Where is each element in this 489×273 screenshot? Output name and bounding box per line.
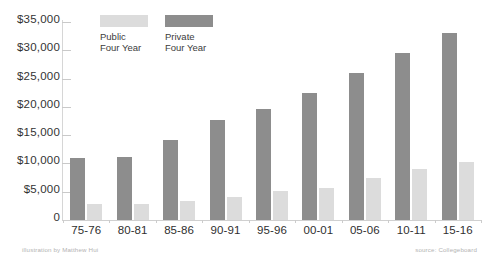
- public-swatch-icon: [100, 15, 148, 27]
- bar-public-four-year: [227, 197, 242, 220]
- bar-private-four-year: [210, 120, 225, 220]
- bar-public-four-year: [366, 178, 381, 220]
- x-axis-tick-mark: [156, 220, 157, 223]
- source-credit: source: Collegeboard: [415, 246, 477, 253]
- bar-public-four-year: [134, 204, 149, 220]
- bar-public-four-year: [319, 188, 334, 220]
- legend-label-public-line1: Public: [100, 32, 152, 43]
- bar-group: [342, 22, 388, 220]
- x-axis-tick-label: 75-76: [63, 224, 109, 236]
- y-axis-tick-label: $10,000: [17, 154, 60, 166]
- x-axis-tick-mark: [202, 220, 203, 223]
- x-axis-label-group: 75-7680-8185-8690-9195-9600-0105-0610-11…: [63, 224, 481, 236]
- bar-group: [295, 22, 341, 220]
- x-axis-tick-label: 05-06: [342, 224, 388, 236]
- bar-private-four-year: [70, 158, 85, 220]
- x-axis-tick-label: 15-16: [435, 224, 481, 236]
- bar-public-four-year: [87, 204, 102, 220]
- legend-label-public-line2: Four Year: [100, 43, 152, 54]
- x-axis-tick-mark: [295, 220, 296, 223]
- bar-private-four-year: [395, 53, 410, 220]
- y-axis-tick-label: $20,000: [17, 98, 60, 110]
- x-axis-tick-label: 10-11: [388, 224, 434, 236]
- legend-label-private-line1: Private: [165, 32, 217, 43]
- y-axis-tick-label: $35,000: [17, 13, 60, 25]
- x-axis-tick-mark: [342, 220, 343, 223]
- bar-private-four-year: [256, 109, 271, 220]
- x-axis-tick-mark: [63, 220, 64, 223]
- bar-group: [435, 22, 481, 220]
- x-axis-tick-mark: [481, 220, 482, 223]
- x-axis-tick-mark: [249, 220, 250, 223]
- y-axis-tick-label: 0: [53, 211, 60, 223]
- x-axis-tick-mark: [109, 220, 110, 223]
- bar-public-four-year: [273, 191, 288, 220]
- bar-public-four-year: [180, 201, 195, 220]
- x-axis-line: [62, 220, 482, 221]
- x-axis-tick-label: 95-96: [249, 224, 295, 236]
- bar-private-four-year: [349, 73, 364, 220]
- bar-private-four-year: [302, 93, 317, 220]
- x-axis-tick-mark: [435, 220, 436, 223]
- bar-private-four-year: [442, 33, 457, 220]
- legend-label-private-line2: Four Year: [165, 43, 217, 54]
- legend-label-private: Private Four Year: [165, 32, 217, 53]
- bar-private-four-year: [117, 157, 132, 220]
- bar-private-four-year: [163, 140, 178, 220]
- y-axis-tick-label: $30,000: [17, 41, 60, 53]
- legend-label-public: Public Four Year: [100, 32, 152, 53]
- legend-item-private: Private Four Year: [165, 15, 217, 53]
- bar-public-four-year: [412, 169, 427, 220]
- y-axis-tick-label: $5,000: [24, 183, 60, 195]
- illustration-credit: illustration by Matthew Hui: [22, 246, 98, 253]
- bar-group: [249, 22, 295, 220]
- legend-item-public: Public Four Year: [100, 15, 152, 53]
- x-axis-tick-label: 90-91: [202, 224, 248, 236]
- bar-public-four-year: [459, 162, 474, 220]
- x-axis-tick-mark: [388, 220, 389, 223]
- y-axis-tick-label: $25,000: [17, 70, 60, 82]
- tuition-bar-chart: 0$5,000$10,000$15,000$20,000$25,000$30,0…: [0, 0, 489, 273]
- bar-group: [388, 22, 434, 220]
- chart-legend: Public Four Year Private Four Year: [100, 15, 217, 53]
- x-axis-tick-label: 85-86: [156, 224, 202, 236]
- x-axis-tick-label: 80-81: [109, 224, 155, 236]
- y-axis-tick-label: $15,000: [17, 126, 60, 138]
- private-swatch-icon: [165, 15, 213, 27]
- x-axis-tick-label: 00-01: [295, 224, 341, 236]
